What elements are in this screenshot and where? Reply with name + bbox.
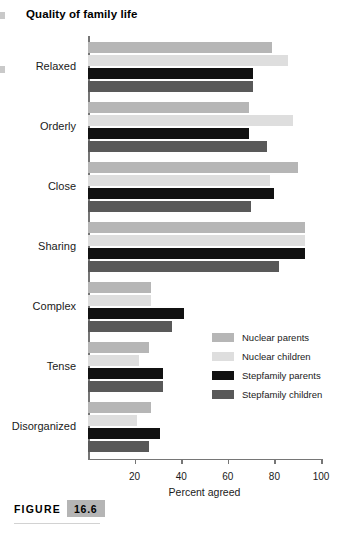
bar <box>88 342 149 353</box>
bar <box>88 68 253 79</box>
bar <box>88 441 149 452</box>
legend-item: Nuclear children <box>212 347 322 366</box>
x-tick <box>181 459 183 464</box>
page-edge-mark-top <box>0 12 5 19</box>
legend-swatch <box>212 333 234 342</box>
category-label: Close <box>48 180 76 192</box>
category-label: Sharing <box>38 240 76 252</box>
x-tick-label: 40 <box>176 471 187 482</box>
legend-swatch <box>212 371 234 380</box>
figure-label: FIGURE <box>14 500 67 517</box>
bar <box>88 261 279 272</box>
bar <box>88 235 305 246</box>
bar <box>88 308 184 319</box>
bar-group: Close <box>88 162 321 214</box>
page-edge-mark-second <box>0 66 5 73</box>
x-axis-title: Percent agreed <box>88 486 321 498</box>
x-axis-line <box>88 459 321 461</box>
category-label: Tense <box>47 360 76 372</box>
category-label: Disorganized <box>12 420 76 432</box>
bar <box>88 162 298 173</box>
chart-legend: Nuclear parentsNuclear childrenStepfamil… <box>212 328 322 404</box>
x-tick-label: 80 <box>269 471 280 482</box>
legend-label: Stepfamily children <box>242 389 322 400</box>
bar-group: Complex <box>88 282 321 334</box>
x-tick <box>135 459 137 464</box>
bar-group: Orderly <box>88 102 321 154</box>
legend-swatch <box>212 390 234 399</box>
x-tick <box>228 459 230 464</box>
bar <box>88 402 151 413</box>
legend-label: Stepfamily parents <box>242 370 321 381</box>
bar <box>88 188 274 199</box>
bar-group: Sharing <box>88 222 321 274</box>
bar <box>88 295 151 306</box>
category-label: Relaxed <box>36 60 76 72</box>
bar <box>88 175 270 186</box>
bar <box>88 128 249 139</box>
legend-item: Nuclear parents <box>212 328 322 347</box>
legend-item: Stepfamily children <box>212 385 322 404</box>
chart-title: Quality of family life <box>26 8 137 20</box>
bar <box>88 55 288 66</box>
bar <box>88 355 139 366</box>
x-tick <box>321 459 323 464</box>
legend-swatch <box>212 352 234 361</box>
caption-rule <box>14 523 100 524</box>
bar <box>88 141 267 152</box>
bar <box>88 42 272 53</box>
bar <box>88 201 251 212</box>
legend-label: Nuclear parents <box>242 332 309 343</box>
bar <box>88 102 249 113</box>
x-tick-label: 100 <box>313 471 330 482</box>
legend-item: Stepfamily parents <box>212 366 322 385</box>
category-label: Complex <box>33 300 76 312</box>
bar <box>88 368 163 379</box>
bar <box>88 381 163 392</box>
bar <box>88 248 305 259</box>
legend-label: Nuclear children <box>242 351 311 362</box>
category-label: Orderly <box>40 120 76 132</box>
bar <box>88 115 293 126</box>
bar <box>88 321 172 332</box>
figure-caption: FIGURE 16.6 <box>14 500 105 517</box>
bar-group: Disorganized <box>88 402 321 454</box>
bar <box>88 222 305 233</box>
bar <box>88 282 151 293</box>
bar <box>88 81 253 92</box>
figure-number: 16.6 <box>67 500 105 517</box>
bar-group: Relaxed <box>88 42 321 94</box>
bar <box>88 415 137 426</box>
x-tick <box>274 459 276 464</box>
bar <box>88 428 160 439</box>
x-tick-label: 60 <box>222 471 233 482</box>
x-tick-label: 20 <box>129 471 140 482</box>
